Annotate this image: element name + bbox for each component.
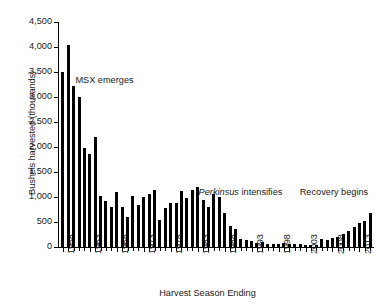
bar <box>78 97 81 248</box>
bar <box>250 241 253 248</box>
bar <box>309 245 312 248</box>
x-tick-minor <box>300 247 301 251</box>
bar <box>191 190 194 248</box>
bar <box>180 191 183 247</box>
bar <box>115 192 118 247</box>
x-tick-major <box>90 247 91 252</box>
bar <box>299 244 302 247</box>
x-tick-minor <box>262 247 263 251</box>
x-tick-minor <box>246 247 247 251</box>
x-tick-minor <box>365 247 366 251</box>
x-tick-major <box>171 247 172 252</box>
bar <box>304 245 307 248</box>
x-tick-minor <box>133 247 134 251</box>
bar <box>99 196 102 248</box>
x-tick-minor <box>349 247 350 251</box>
bar <box>223 213 226 248</box>
x-tick-minor <box>230 247 231 251</box>
x-tick-minor <box>138 247 139 251</box>
x-tick-major <box>252 247 253 252</box>
chart-annotation: Recovery begins <box>300 187 368 197</box>
bar <box>315 245 318 248</box>
x-tick-major <box>117 247 118 252</box>
bar <box>185 198 188 247</box>
x-tick-minor <box>322 247 323 251</box>
bar <box>131 196 134 247</box>
y-tick-label: 1,000 <box>12 191 52 201</box>
x-tick-minor <box>111 247 112 251</box>
x-tick-minor <box>155 247 156 251</box>
x-tick-minor <box>354 247 355 251</box>
x-tick-minor <box>187 247 188 251</box>
x-tick-major <box>306 247 307 252</box>
y-tick-mark <box>54 247 58 248</box>
x-tick-minor <box>343 247 344 251</box>
x-tick-minor <box>149 247 150 251</box>
x-tick-major <box>63 247 64 252</box>
bar <box>175 203 178 247</box>
bar <box>218 197 221 248</box>
bar <box>207 207 210 247</box>
bar <box>148 194 151 247</box>
x-tick-minor <box>84 247 85 251</box>
bar <box>331 238 334 248</box>
x-tick-minor <box>327 247 328 251</box>
bar <box>158 220 161 248</box>
x-tick-major <box>332 247 333 252</box>
bar-series <box>58 22 374 247</box>
bar <box>245 240 248 247</box>
bar <box>94 137 97 248</box>
bar <box>320 239 323 248</box>
bar <box>282 243 285 248</box>
x-tick-minor <box>128 247 129 251</box>
bar <box>288 244 291 247</box>
x-tick-minor <box>219 247 220 251</box>
bar <box>72 86 75 248</box>
bar <box>88 154 91 248</box>
x-tick-minor <box>95 247 96 251</box>
bar <box>110 207 113 247</box>
bar <box>137 205 140 248</box>
x-tick-minor <box>203 247 204 251</box>
bar <box>153 190 156 247</box>
x-tick-minor <box>284 247 285 251</box>
y-tick-label: 4,500 <box>12 16 52 26</box>
bar <box>293 244 296 248</box>
x-tick-minor <box>122 247 123 251</box>
x-tick-minor <box>176 247 177 251</box>
bar <box>164 208 167 248</box>
plot-area: 05001,0001,5002,0002,5003,0003,5004,0004… <box>58 22 374 247</box>
y-tick-label: 2,500 <box>12 116 52 126</box>
x-tick-major <box>198 247 199 252</box>
x-tick-minor <box>208 247 209 251</box>
x-tick-minor <box>289 247 290 251</box>
bar <box>342 234 345 248</box>
annotation-italic-term: Perkinsus <box>199 187 239 197</box>
oyster-harvest-bar-chart: Bushels harvested (thousands) 05001,0001… <box>0 0 381 307</box>
x-tick-major <box>225 247 226 252</box>
bar <box>261 242 264 247</box>
x-tick-major <box>144 247 145 252</box>
chart-annotation: MSX emerges <box>75 75 133 85</box>
y-tick-label: 4,000 <box>12 41 52 51</box>
bar <box>255 243 258 248</box>
annotation-text: intensifies <box>239 187 282 197</box>
x-tick-minor <box>316 247 317 251</box>
x-tick-minor <box>257 247 258 251</box>
bar <box>239 239 242 248</box>
x-tick-minor <box>101 247 102 251</box>
bar <box>363 221 366 248</box>
y-tick-label: 2,000 <box>12 141 52 151</box>
x-tick-minor <box>295 247 296 251</box>
x-tick-minor <box>241 247 242 251</box>
bar <box>142 197 145 247</box>
x-tick-minor <box>68 247 69 251</box>
bar <box>61 72 64 247</box>
bar <box>126 217 129 247</box>
bar <box>234 229 237 248</box>
x-tick-minor <box>165 247 166 251</box>
x-tick-major <box>359 247 360 252</box>
x-tick-major <box>279 247 280 252</box>
bar <box>353 227 356 247</box>
bar <box>229 226 232 248</box>
